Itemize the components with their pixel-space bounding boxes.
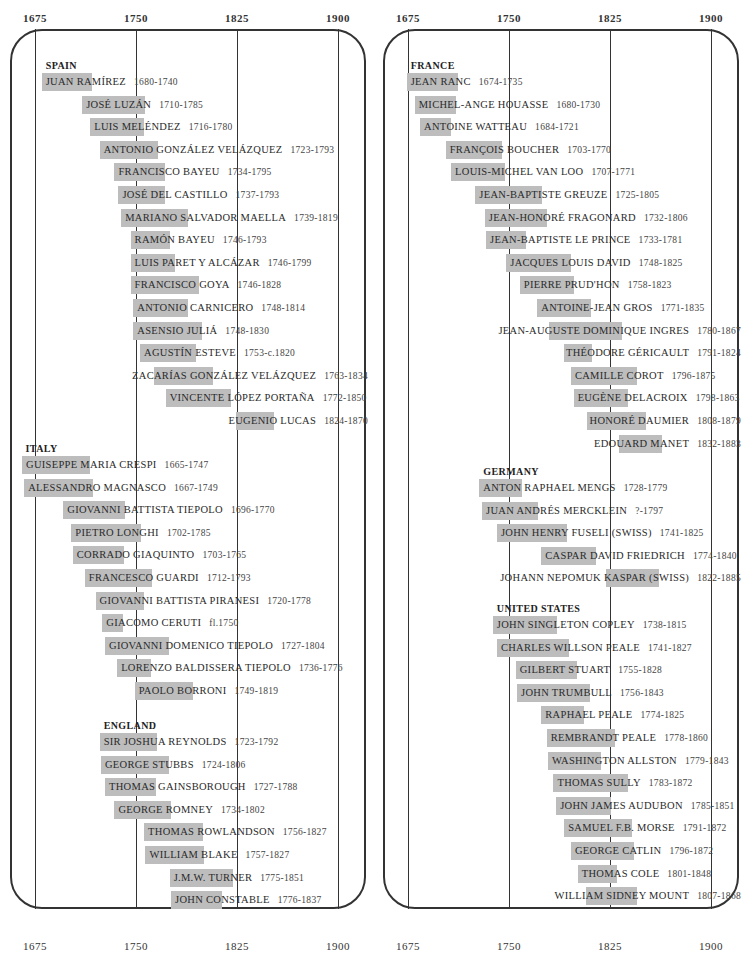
artist-name: WILLIAM BLAKE [149,849,237,860]
artist-dates: 1732-1806 [644,213,688,223]
axis-tick-top: 1750 [497,12,521,24]
artist-label: LUIS PARET Y ALCÁZAR1746-1799 [135,257,312,268]
artist-name: GIOVANNI BATTISTA TIEPOLO [67,504,223,515]
artist-row: PIETRO LONGHI1702-1785 [0,524,373,542]
artist-label: AGUSTÍN ESTEVE1753-c.1820 [144,347,295,358]
axis-tick-top: 1900 [699,12,723,24]
artist-label: SIR JOSHUA REYNOLDS1723-1792 [104,736,279,747]
axis-tick-bottom: 1750 [124,940,148,952]
artist-name: CHARLES WILLSON PEALE [501,642,640,653]
artist-row: JEAN-BAPTISTE LE PRINCE1733-1781 [373,231,746,249]
artist-dates: 1680-1740 [134,77,178,87]
artist-label: ANTOINE-JEAN GROS1771-1835 [541,302,704,313]
artist-dates: 1772-1850 [323,393,367,403]
artist-name: WASHINGTON ALLSTON [552,755,677,766]
artist-label: GEORGE CATLIN1796-1872 [575,845,713,856]
artist-row: JOHN JAMES AUDUBON1785-1851 [373,797,746,815]
artist-row: ANTOINE-JEAN GROS1771-1835 [373,299,746,317]
artist-label: FRANCESCO GUARDI1712-1793 [89,572,251,583]
artist-label: CAMILLE COROT1796-1875 [575,370,716,381]
artist-row: JEAN-AUGUSTE DOMINIQUE INGRES1780-1867 [373,322,746,340]
artist-label: ANTONIO CARNICERO1748-1814 [137,302,305,313]
artist-label: ZACARÍAS GONZÁLEZ VELÁZQUEZ1763-1834 [132,370,368,381]
artist-label: WILLIAM BLAKE1757-1827 [149,849,289,860]
artist-row: JEAN RANC1674-1735 [373,73,746,91]
artist-dates: 1758-1823 [628,280,672,290]
artist-name: JUAN RAMÍREZ [46,76,126,87]
artist-row: JOHN SINGLETON COPLEY1738-1815 [373,616,746,634]
artist-dates: 1807-1868 [697,891,741,901]
artist-label: JOHN JAMES AUDUBON1785-1851 [560,800,735,811]
artist-row: JOHN HENRY FUSELI (SWISS)1741-1825 [373,524,746,542]
artist-label: CORRADO GIAQUINTO1703-1765 [77,549,247,560]
artist-label: VINCENTE LÓPEZ PORTAÑA1772-1850 [170,392,367,403]
artist-row: EUGÈNE DELACROIX1798-1863 [373,389,746,407]
artist-dates: 1734-1795 [228,167,272,177]
artist-name: JUAN ANDRÉS MERCKLEIN [486,505,627,516]
artist-name: GEORGE STUBBS [105,759,194,770]
left-panel: 16751675175017501825182519001900SPAINJUA… [0,0,373,964]
artist-row: EUGENIO LUCAS1824-1870 [0,412,373,430]
artist-label: THOMAS COLE1801-1848 [582,868,712,879]
artist-dates: 1798-1863 [696,393,740,403]
artist-name: LORENZO BALDISSERA TIEPOLO [121,662,291,673]
artist-label: JOHN CONSTABLE1776-1837 [175,894,322,905]
artist-label: ANTOINE WATTEAU1684-1721 [424,121,579,132]
artist-dates: 1734-1802 [221,805,265,815]
artist-label: JACQUES LOUIS DAVID1748-1825 [510,257,682,268]
artist-row: JOSÉ LUZÁN1710-1785 [0,96,373,114]
country-heading: UNITED STATES [497,603,580,614]
axis-tick-top: 1825 [598,12,622,24]
artist-label: ALESSANDRO MAGNASCO1667-1749 [28,482,218,493]
artist-label: JOHN TRUMBULL1756-1843 [521,687,664,698]
artist-dates: 1796-1875 [672,371,716,381]
artist-dates: 1801-1848 [667,869,711,879]
artist-label: EUGÈNE DELACROIX1798-1863 [578,392,740,403]
artist-row: ASENSIO JULIÁ1748-1830 [0,322,373,340]
artist-row: JOSÉ DEL CASTILLO1737-1793 [0,186,373,204]
artist-name: GILBERT STUART [520,664,611,675]
artist-dates: 1665-1747 [165,460,209,470]
artist-name: FRANCESCO GUARDI [89,572,199,583]
artist-name: AGUSTÍN ESTEVE [144,347,236,358]
artist-label: REMBRANDT PEALE1778-1860 [551,732,708,743]
artist-name: SIR JOSHUA REYNOLDS [104,736,227,747]
artist-row: ANTON RAPHAEL MENGS1728-1779 [373,479,746,497]
artist-row: JACQUES LOUIS DAVID1748-1825 [373,254,746,272]
artist-label: MICHEL-ANGE HOUASSE1680-1730 [419,99,601,110]
artist-row: THOMAS SULLY1783-1872 [373,774,746,792]
artist-dates: 1753-c.1820 [244,348,295,358]
artist-name: FRANCISCO BAYEU [118,166,219,177]
artist-dates: 1727-1788 [254,782,298,792]
artist-row: FRANCESCO GUARDI1712-1793 [0,569,373,587]
artist-row: RAMÓN BAYEU1746-1793 [0,231,373,249]
artist-label: THOMAS ROWLANDSON1756-1827 [148,826,327,837]
artist-dates: 1702-1785 [167,528,211,538]
artist-name: EDOUARD MANET [594,438,689,449]
artist-dates: 1757-1827 [246,850,290,860]
artist-row: CHARLES WILLSON PEALE1741-1827 [373,639,746,657]
artist-label: JOSÉ LUZÁN1710-1785 [86,99,203,110]
artist-name: THOMAS ROWLANDSON [148,826,275,837]
axis-tick-top: 1750 [124,12,148,24]
artist-name: LOUIS-MICHEL VAN LOO [455,166,583,177]
artist-dates: 1680-1730 [556,100,600,110]
axis-tick-bottom: 1825 [225,940,249,952]
artist-name: ANTONIO GONZÁLEZ VELÁZQUEZ [104,144,283,155]
artist-dates: 1696-1770 [231,505,275,515]
country-heading: FRANCE [411,60,455,71]
artist-dates: 1749-1819 [234,686,278,696]
artist-label: WASHINGTON ALLSTON1779-1843 [552,755,729,766]
country-heading: ITALY [26,443,58,454]
artist-label: JEAN RANC1674-1735 [411,76,523,87]
artist-label: THOMAS GAINSBOROUGH1727-1788 [109,781,298,792]
artist-row: J.M.W. TURNER1775-1851 [0,869,373,887]
artist-label: EUGENIO LUCAS1824-1870 [229,415,368,426]
artist-dates: 1779-1843 [685,756,729,766]
artist-dates: 1710-1785 [159,100,203,110]
artist-row: CAMILLE COROT1796-1875 [373,367,746,385]
artist-name: JOSÉ LUZÁN [86,99,151,110]
artist-dates: 1727-1804 [281,641,325,651]
artist-row: FRANCISCO GOYA1746-1828 [0,276,373,294]
artist-dates: 1707-1771 [591,167,635,177]
